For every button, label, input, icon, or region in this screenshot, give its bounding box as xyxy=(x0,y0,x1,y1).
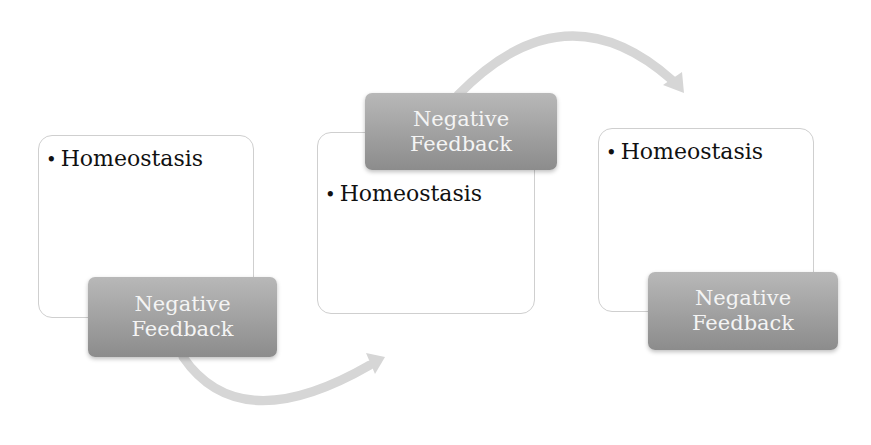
step-2-bullet: •Homeostasis xyxy=(325,181,482,206)
label-line-1: Negative xyxy=(648,286,838,311)
label-line-1: Negative xyxy=(365,107,557,132)
step-1-bullet: •Homeostasis xyxy=(46,146,203,171)
step-1-text: Homeostasis xyxy=(61,146,203,171)
step-3-bullet: •Homeostasis xyxy=(606,139,763,164)
label-line-2: Feedback xyxy=(648,311,838,336)
arrow-step2-to-step3 xyxy=(458,36,672,95)
step-3-label: Negative Feedback xyxy=(648,272,838,350)
label-line-2: Feedback xyxy=(88,317,277,342)
label-line-2: Feedback xyxy=(365,132,557,157)
arrow-step1-to-step2 xyxy=(183,357,370,401)
step-2-text: Homeostasis xyxy=(340,181,482,206)
label-line-1: Negative xyxy=(88,292,277,317)
step-3-text: Homeostasis xyxy=(621,139,763,164)
step-1-label: Negative Feedback xyxy=(88,277,277,357)
step-2-label: Negative Feedback xyxy=(365,93,557,170)
